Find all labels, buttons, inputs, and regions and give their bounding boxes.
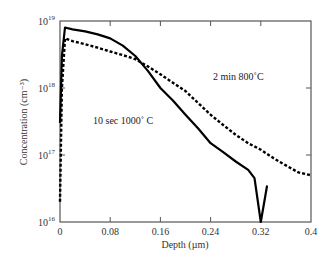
x-tick-label: 0.24 bbox=[202, 226, 220, 237]
y-axis-title: Concentration (cm⁻³) bbox=[18, 79, 30, 165]
y-tick-label: 1019 bbox=[38, 14, 56, 27]
x-tick-label: 0.16 bbox=[152, 226, 170, 237]
concentration-depth-chart: 00.080.160.240.320.4 1016101710181019 2 … bbox=[0, 0, 333, 267]
x-axis-ticks: 00.080.160.240.320.4 bbox=[58, 21, 318, 237]
y-axis-ticks: 1016101710181019 bbox=[38, 14, 311, 228]
x-tick-label: 0.4 bbox=[305, 226, 318, 237]
x-tick-label: 0 bbox=[58, 226, 63, 237]
x-axis-title: Depth (µm) bbox=[161, 239, 208, 251]
y-tick-label: 1018 bbox=[38, 81, 56, 94]
x-tick-label: 0.32 bbox=[252, 226, 270, 237]
y-tick-label: 1016 bbox=[38, 215, 56, 228]
annotation-2min-800c: 2 min 800˚C bbox=[213, 71, 264, 82]
series-10sec-1000c bbox=[60, 28, 267, 223]
annotation-10sec-1000c: 10 sec 1000˚ C bbox=[93, 115, 154, 126]
x-tick-label: 0.08 bbox=[101, 226, 119, 237]
y-tick-label: 1017 bbox=[38, 148, 56, 161]
